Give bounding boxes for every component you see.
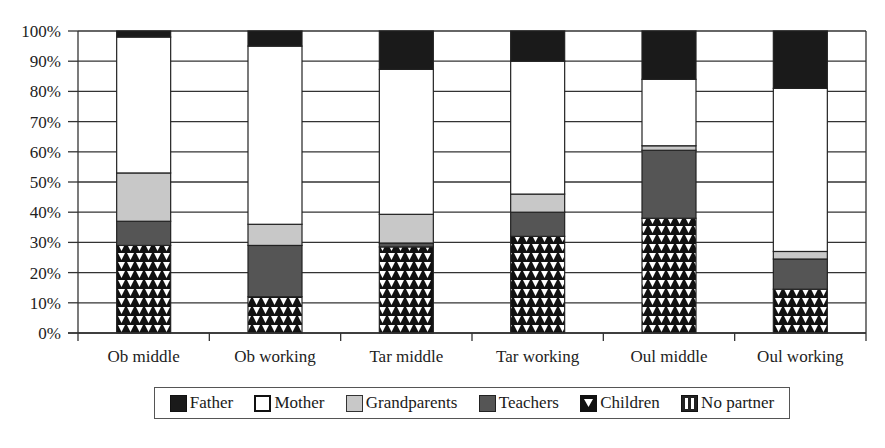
bar-segment-father [642, 31, 696, 79]
y-tick-label: 0% [38, 324, 61, 343]
bar-segment-mother [248, 46, 302, 224]
bar-segment-teachers [511, 212, 565, 236]
bar-segment-grandparents [511, 194, 565, 212]
bar-segment-teachers [773, 259, 827, 289]
father-swatch-icon [170, 395, 187, 412]
y-tick-label: 80% [30, 82, 61, 101]
bar-segment-children [773, 289, 827, 333]
legend-item-father: Father [170, 393, 233, 413]
legend-label: Children [600, 393, 660, 413]
grandparents-swatch-icon [346, 395, 363, 412]
bar-segment-grandparents [117, 173, 171, 221]
bar-segment-children [117, 245, 171, 333]
bar-segment-children [642, 218, 696, 333]
x-axis: Ob middleOb workingTar middleTar working… [68, 333, 866, 366]
children-swatch-icon [580, 395, 597, 412]
bar-segment-father [117, 31, 171, 37]
bar-segment-father [773, 31, 827, 88]
legend-label: Mother [274, 393, 324, 413]
bar-segment-father [511, 31, 565, 61]
bar-segment-teachers [117, 221, 171, 245]
mother-swatch-icon [254, 395, 271, 412]
bar-segment-children [511, 236, 565, 333]
bar-segment-mother [642, 79, 696, 145]
legend-label: No partner [701, 393, 774, 413]
stacked-bar-chart: 0%10%20%30%40%50%60%70%80%90%100% Ob mid… [0, 0, 885, 448]
legend-item-children: Children [580, 393, 660, 413]
bar-segment-mother [117, 37, 171, 173]
teachers-swatch-icon [479, 395, 496, 412]
y-tick-label: 90% [30, 52, 61, 71]
bar-segment-grandparents [773, 251, 827, 259]
bar-segment-father [379, 31, 433, 69]
legend-item-grandparents: Grandparents [346, 393, 458, 413]
bar-segment-mother [379, 69, 433, 214]
no-partner-swatch-icon [681, 395, 698, 412]
y-tick-label: 50% [30, 173, 61, 192]
bar-segment-mother [773, 88, 827, 251]
bar-segment-grandparents [248, 224, 302, 245]
y-tick-label: 70% [30, 113, 61, 132]
y-tick-label: 30% [30, 233, 61, 252]
bar-segment-teachers [642, 150, 696, 218]
bar-segment-children [248, 297, 302, 333]
y-tick-label: 100% [21, 22, 61, 41]
legend-label: Grandparents [366, 393, 458, 413]
y-tick-label: 60% [30, 143, 61, 162]
x-category-label: Oul working [757, 347, 844, 366]
x-category-label: Ob working [234, 347, 316, 366]
y-tick-label: 20% [30, 264, 61, 283]
legend-item-mother: Mother [254, 393, 324, 413]
bar-segment-children [379, 247, 433, 333]
bar-segment-teachers [248, 245, 302, 296]
legend-label: Father [190, 393, 233, 413]
x-category-label: Oul middle [631, 347, 708, 366]
bar-segment-grandparents [379, 214, 433, 243]
bar-segment-grandparents [642, 146, 696, 151]
legend-item-no-partner: No partner [681, 393, 774, 413]
x-category-label: Tar middle [369, 347, 443, 366]
bar-segment-father [248, 31, 302, 46]
x-category-label: Ob middle [108, 347, 180, 366]
gridlines [78, 31, 866, 333]
legend-item-teachers: Teachers [479, 393, 559, 413]
bar-segment-mother [511, 61, 565, 194]
y-tick-label: 40% [30, 203, 61, 222]
legend: Father Mother Grandparents Teachers Chil… [154, 387, 790, 419]
x-category-label: Tar working [496, 347, 580, 366]
y-tick-label: 10% [30, 294, 61, 313]
legend-label: Teachers [499, 393, 559, 413]
